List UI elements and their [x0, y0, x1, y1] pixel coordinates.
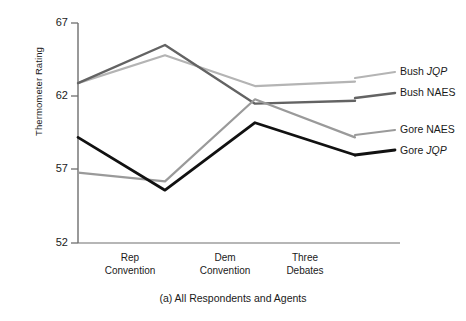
legend-swatch-bush-jqp — [355, 72, 395, 78]
series-line-gore-jqp — [78, 123, 355, 190]
legend-text-plain-gore-naes: Gore NAES — [400, 123, 455, 135]
legend-swatch-gore-jqp — [355, 150, 395, 155]
series-line-bush-naes — [78, 45, 355, 104]
legend-text-plain-gore-jqp: Gore — [400, 144, 426, 156]
series-line-bush-jqp — [78, 55, 355, 86]
legend-label-gore-jqp: Gore JQP — [400, 144, 447, 156]
legend-label-bush-naes: Bush NAES — [400, 86, 455, 98]
legend-swatches — [355, 72, 395, 155]
legend-text-italic-gore-jqp: JQP — [426, 144, 446, 156]
x-tick-line2-rep: Convention — [75, 265, 185, 278]
x-tick-line1-three: Three — [250, 252, 360, 265]
legend-text-plain-bush-jqp: Bush — [400, 65, 427, 77]
legend-text-plain-bush-naes: Bush NAES — [400, 86, 455, 98]
legend-text-italic-bush-jqp: JQP — [427, 65, 447, 77]
x-tick-line2-three: Debates — [250, 265, 360, 278]
x-tick-label-three-debates: Three Debates — [250, 252, 360, 277]
series-lines — [78, 45, 355, 190]
figure-caption: (a) All Respondents and Agents — [0, 292, 466, 304]
x-tick-line1-rep: Rep — [75, 252, 185, 265]
legend-label-bush-jqp: Bush JQP — [400, 65, 447, 77]
figure-all-respondents-and-agents: Thermometer Rating 67 62 57 52 Bush JQP — [0, 0, 466, 321]
legend-swatch-gore-naes — [355, 130, 395, 135]
x-tick-label-rep-convention: Rep Convention — [75, 252, 185, 277]
legend-label-gore-naes: Gore NAES — [400, 123, 455, 135]
legend-swatch-bush-naes — [355, 93, 395, 98]
